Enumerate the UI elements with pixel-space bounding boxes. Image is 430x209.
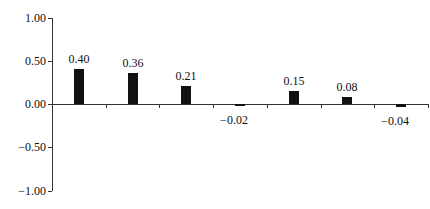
bar <box>74 69 84 104</box>
bar-chart: 1.000.500.00−0.50−1.00 0.400.360.21−0.02… <box>0 0 430 209</box>
bar-value-label: 0.21 <box>161 70 211 82</box>
bar <box>128 73 138 104</box>
x-tick-mark <box>213 104 214 108</box>
bar <box>181 86 191 104</box>
bar <box>342 97 352 104</box>
x-tick-mark <box>159 104 160 108</box>
y-tick-mark <box>48 191 52 192</box>
bar-value-label: 0.08 <box>322 81 372 93</box>
y-tick-label: 1.00 <box>2 12 46 24</box>
x-tick-mark <box>374 104 375 108</box>
x-tick-mark <box>321 104 322 108</box>
y-tick-mark <box>48 61 52 62</box>
bar <box>235 104 245 106</box>
x-tick-mark <box>428 104 429 108</box>
bar-value-label: −0.02 <box>209 114 259 126</box>
bar <box>396 104 406 107</box>
y-tick-mark <box>48 104 52 105</box>
y-tick-mark <box>48 18 52 19</box>
bar-value-label: 0.36 <box>108 57 158 69</box>
y-tick-label: 0.50 <box>2 55 46 67</box>
bar <box>289 91 299 104</box>
y-tick-mark <box>48 147 52 148</box>
x-tick-mark <box>106 104 107 108</box>
bar-value-label: −0.04 <box>370 115 420 127</box>
y-tick-label: 0.00 <box>2 98 46 110</box>
x-tick-mark <box>267 104 268 108</box>
y-tick-label: −0.50 <box>2 141 46 153</box>
y-tick-label: −1.00 <box>2 185 46 197</box>
bar-value-label: 0.15 <box>269 75 319 87</box>
bar-value-label: 0.40 <box>54 53 104 65</box>
